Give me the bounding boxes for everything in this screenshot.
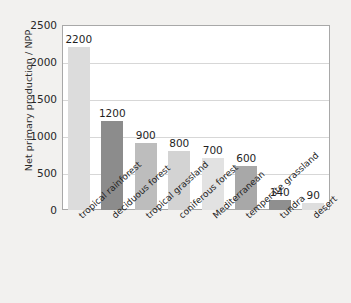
- x-axis-tick-label: tundra: [278, 213, 285, 220]
- y-axis-tick-label: 1000: [6, 130, 62, 142]
- bar-value-label: 1200: [87, 107, 137, 119]
- x-axis-tick-label: desert: [311, 213, 318, 220]
- y-axis-tick-label: 2000: [6, 56, 62, 68]
- bar-value-label: 600: [221, 152, 271, 164]
- bar-chart: Net primary production / NPP 05001000150…: [0, 0, 351, 303]
- y-axis-tick-label: 2500: [6, 19, 62, 31]
- y-axis-tick-label: 500: [6, 167, 62, 179]
- y-axis-tick-label: 0: [6, 204, 62, 216]
- bar-group[interactable]: 90: [302, 25, 324, 210]
- bar-value-label: 2200: [54, 33, 104, 45]
- x-axis-tick-label: Mediterranean: [211, 213, 218, 220]
- x-axis-tick-label: deciduous forest: [110, 213, 117, 220]
- y-axis-tick-label: 1500: [6, 93, 62, 105]
- x-axis-tick-label: temperate grassland: [244, 213, 251, 220]
- x-axis-tick-label: coniferous forest: [177, 213, 184, 220]
- x-axis-tick-labels: tropical rainforestdeciduous foresttropi…: [62, 211, 330, 303]
- y-axis-tick-labels: 05001000150020002500: [0, 25, 62, 210]
- bar[interactable]: [68, 47, 90, 210]
- x-axis-tick-label: tropical rainforest: [77, 213, 84, 220]
- x-axis-tick-label: tropical grassland: [144, 213, 151, 220]
